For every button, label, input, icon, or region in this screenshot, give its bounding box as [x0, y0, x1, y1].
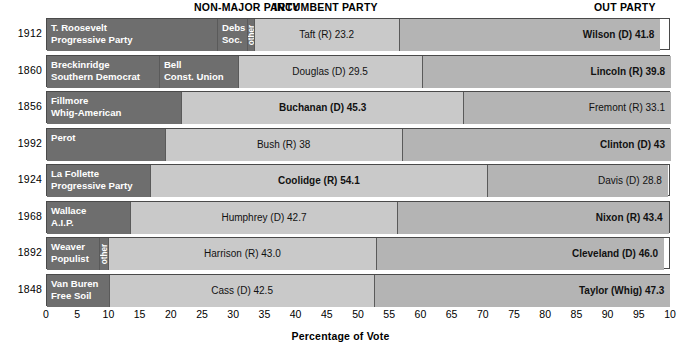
bar-segment-nonmajor: WeaverPopulist: [47, 238, 100, 270]
bar-segment-out: Wilson (D) 41.8: [400, 19, 661, 51]
segment-label: Van BurenFree Soil: [51, 278, 98, 302]
chart-row: 1860BreckinridgeSouthern DemocratBellCon…: [0, 53, 681, 90]
column-headers: NON-MAJOR PARTY INCUMBENT PARTY OUT PART…: [0, 0, 681, 16]
x-axis-tick: 0: [34, 308, 58, 320]
segment-label: Perot: [51, 132, 76, 144]
segment-value-label: Clinton (D) 43: [600, 139, 665, 150]
header-out-party: OUT PARTY: [594, 1, 656, 13]
x-axis-tick: 10: [96, 308, 120, 320]
x-axis-tick: 90: [596, 308, 620, 320]
stacked-bar: WeaverPopulistotherHarrison (R) 43.0Clev…: [46, 237, 670, 269]
bar-segment-out: Davis (D) 28.8: [488, 165, 668, 197]
x-axis-tick: 75: [502, 308, 526, 320]
segment-label-line1: La Follette: [51, 168, 99, 179]
x-axis-tick: 95: [627, 308, 651, 320]
row-year-label: 1848: [6, 283, 42, 295]
bar-segment-incumbent: Buchanan (D) 45.3: [182, 92, 465, 124]
segment-value-label: Nixon (R) 43.4: [596, 212, 663, 223]
x-axis-tick: 20: [159, 308, 183, 320]
x-axis-tick: 35: [252, 308, 276, 320]
segment-label-other: other: [248, 25, 255, 45]
chart-row: 1968WallaceA.I.P.Humphrey (D) 42.7Nixon …: [0, 199, 681, 236]
bar-segment-out: Clinton (D) 43: [403, 129, 671, 161]
row-year-label: 1924: [6, 173, 42, 185]
x-axis-tick: 30: [221, 308, 245, 320]
header-incumbent-party: INCUMBENT PARTY: [274, 1, 378, 13]
x-axis-tick: 10: [658, 308, 681, 320]
row-year-label: 1856: [6, 100, 42, 112]
segment-label-line1: Weaver: [51, 241, 85, 252]
chart-row: 1912T. RooseveltProgressive PartyDebsSoc…: [0, 16, 681, 53]
segment-label-line2: Progressive Party: [51, 180, 133, 192]
x-axis: 0510152025303540455055606570758085909510: [0, 308, 681, 328]
bar-segment-incumbent: Douglas (D) 29.5: [239, 56, 423, 88]
x-axis-tick: 80: [533, 308, 557, 320]
segment-label-line1: Bell: [164, 59, 182, 70]
bar-segment-nonmajor: DebsSoc.: [218, 19, 248, 51]
bar-segment-other: other: [100, 238, 109, 270]
x-axis-tick: 85: [564, 308, 588, 320]
bar-segment-nonmajor: La FolletteProgressive Party: [47, 165, 151, 197]
bar-segment-incumbent: Taft (R) 23.2: [255, 19, 400, 51]
bar-segment-out: Nixon (R) 43.4: [398, 202, 669, 234]
segment-value-label: Cass (D) 42.5: [110, 285, 374, 296]
x-axis-tick: 45: [315, 308, 339, 320]
x-axis-tick: 70: [471, 308, 495, 320]
segment-value-label: Taylor (Whig) 47.3: [579, 285, 664, 296]
segment-value-label: Davis (D) 28.8: [598, 175, 662, 186]
bar-segment-incumbent: Coolidge (R) 54.1: [151, 165, 489, 197]
bar-segment-nonmajor: Perot: [47, 129, 166, 161]
bar-segment-out: Lincoln (R) 39.8: [423, 56, 671, 88]
chart-row: 1992PerotBush (R) 38Clinton (D) 43: [0, 126, 681, 163]
segment-value-label: Buchanan (D) 45.3: [182, 102, 464, 113]
bar-segment-incumbent: Cass (D) 42.5: [110, 275, 375, 307]
chart-row: 1848Van BurenFree SoilCass (D) 42.5Taylo…: [0, 272, 681, 309]
stacked-bar: WallaceA.I.P.Humphrey (D) 42.7Nixon (R) …: [46, 201, 670, 233]
chart-row: 1892WeaverPopulistotherHarrison (R) 43.0…: [0, 235, 681, 272]
bar-segment-incumbent: Humphrey (D) 42.7: [131, 202, 397, 234]
segment-label: La FolletteProgressive Party: [51, 168, 133, 192]
segment-value-label: Wilson (D) 41.8: [583, 29, 655, 40]
stacked-bar: BreckinridgeSouthern DemocratBellConst. …: [46, 55, 670, 87]
segment-value-label: Fremont (R) 33.1: [589, 102, 665, 113]
segment-label-line2: Progressive Party: [51, 34, 133, 46]
bar-segment-nonmajor: BreckinridgeSouthern Democrat: [47, 56, 160, 88]
segment-label: WallaceA.I.P.: [51, 205, 86, 229]
segment-value-label: Coolidge (R) 54.1: [151, 175, 488, 186]
bar-segment-nonmajor: Van BurenFree Soil: [47, 275, 110, 307]
stacked-bar: PerotBush (R) 38Clinton (D) 43: [46, 128, 670, 160]
bar-segment-out: Taylor (Whig) 47.3: [375, 275, 670, 307]
segment-label: BellConst. Union: [164, 59, 224, 83]
segment-label-line1: Van Buren: [51, 278, 98, 289]
segment-value-label: Humphrey (D) 42.7: [131, 212, 396, 223]
segment-value-label: Douglas (D) 29.5: [239, 66, 422, 77]
x-axis-tick: 40: [284, 308, 308, 320]
bar-segment-incumbent: Harrison (R) 43.0: [109, 238, 377, 270]
chart-rows: 1912T. RooseveltProgressive PartyDebsSoc…: [0, 16, 681, 308]
x-axis-tick: 60: [408, 308, 432, 320]
bar-segment-out: Fremont (R) 33.1: [464, 92, 671, 124]
segment-label-line1: Debs: [222, 22, 245, 33]
row-year-label: 1968: [6, 210, 42, 222]
segment-value-label: Lincoln (R) 39.8: [591, 66, 665, 77]
segment-label-line2: A.I.P.: [51, 217, 86, 229]
bar-segment-nonmajor: FillmoreWhig-American: [47, 92, 182, 124]
x-axis-tick: 15: [128, 308, 152, 320]
segment-value-label: Bush (R) 38: [166, 139, 402, 150]
bar-segment-nonmajor: WallaceA.I.P.: [47, 202, 131, 234]
x-axis-title: Percentage of Vote: [0, 330, 681, 342]
row-year-label: 1912: [6, 27, 42, 39]
x-axis-tick: 25: [190, 308, 214, 320]
x-axis-tick: 65: [440, 308, 464, 320]
bar-segment-other: other: [248, 19, 255, 51]
x-axis-tick: 5: [65, 308, 89, 320]
stacked-bar: T. RooseveltProgressive PartyDebsSoc.oth…: [46, 18, 670, 50]
bar-segment-incumbent: Bush (R) 38: [166, 129, 403, 161]
bar-segment-nonmajor: T. RooseveltProgressive Party: [47, 19, 218, 51]
segment-value-label: Cleveland (D) 46.0: [572, 248, 658, 259]
x-axis-tick: 55: [377, 308, 401, 320]
stacked-bar: FillmoreWhig-AmericanBuchanan (D) 45.3Fr…: [46, 91, 670, 123]
bar-segment-out: Cleveland (D) 46.0: [377, 238, 664, 270]
segment-value-label: Harrison (R) 43.0: [109, 248, 376, 259]
segment-value-label: Taft (R) 23.2: [255, 29, 399, 40]
